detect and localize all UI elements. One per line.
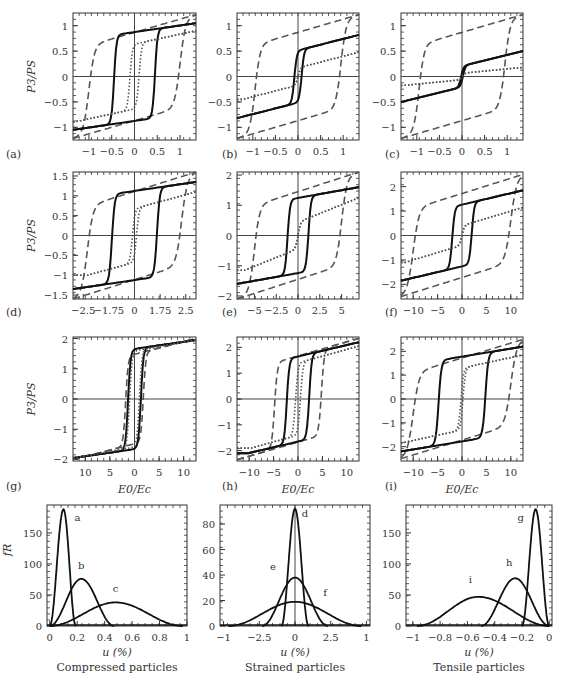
x-tick-label: −0.2 <box>510 632 534 643</box>
y-axis-title: fR <box>1 544 14 557</box>
chart-h: −10−50510−2−1012(h)E0/Ec <box>217 337 359 496</box>
chart-d: −2.5−1.7501.752.5−1.5−1−0.500.511.5(d)P3… <box>6 171 196 319</box>
y-tick-label: −1 <box>217 420 232 431</box>
x-axis-title: u (%) <box>464 646 494 659</box>
y-tick-label: 2 <box>226 170 232 181</box>
x-tick-label: 10 <box>79 467 92 478</box>
x-axis-title: u (%) <box>102 646 132 659</box>
x-tick-label: −10 <box>239 467 260 478</box>
y-tick-label: −1 <box>53 122 68 133</box>
series-label: e <box>270 561 276 572</box>
y-tick-label: 100 <box>382 559 401 570</box>
x-tick-label: −0.6 <box>455 632 479 643</box>
y-tick-label: 0 <box>36 621 42 632</box>
x-tick-label: 1.75 <box>149 305 171 316</box>
x-tick-label: 0.5 <box>313 146 329 157</box>
x-tick-label: −2.5 <box>247 632 271 643</box>
chart-e: −5−2.502.55−2−1012(e) <box>217 170 359 319</box>
x-tick-label: 0 <box>295 467 301 478</box>
y-tick-label: −0.5 <box>44 250 68 261</box>
figure: −1−0.500.51−1−0.500.51(a)P3/PS−1−0.500.5… <box>0 0 564 685</box>
x-tick-label: 5 <box>483 305 489 316</box>
x-tick-label: 0.8 <box>152 632 168 643</box>
y-tick-label: −1 <box>381 255 396 266</box>
x-tick-label: −1 <box>245 146 260 157</box>
chart-i: −10−50510−2−1012(i)E0/Ec <box>381 337 523 496</box>
x-tick-label: 1 <box>504 146 510 157</box>
y-tick-label: 1 <box>390 370 396 381</box>
y-tick-label: 1 <box>390 206 396 217</box>
x-tick-label: 1 <box>363 632 369 643</box>
x-tick-label: −1 <box>405 632 420 643</box>
x-tick-label: 0.4 <box>97 632 113 643</box>
x-tick-label: −1.75 <box>94 305 125 316</box>
x-tick-label: 0.6 <box>124 632 140 643</box>
chart-dist-tensile: −1−0.8−0.6−0.4−0.20050100150ghiu (%)Tens… <box>382 505 553 674</box>
x-tick-label: 0.5 <box>477 146 493 157</box>
x-tick-label: 2.5 <box>312 305 328 316</box>
y-tick-label: −2 <box>381 442 396 453</box>
x-tick-label: −5 <box>430 305 445 316</box>
y-tick-label: −2 <box>217 291 232 302</box>
series-label: d <box>302 508 309 519</box>
panel-label: (d) <box>6 306 22 319</box>
x-axis-title: E0/Ec <box>445 483 479 496</box>
y-tick-label: −1 <box>217 261 232 272</box>
series-label: g <box>517 512 524 523</box>
y-tick-label: −1 <box>381 418 396 429</box>
y-tick-label: 0 <box>226 394 232 405</box>
y-tick-label: 1 <box>62 364 68 375</box>
chart-dist-strained: −1−2.502.51020406080defu (%)Strained par… <box>202 505 370 674</box>
x-tick-label: −0.5 <box>427 146 451 157</box>
y-tick-label: 60 <box>202 545 215 556</box>
y-tick-label: 40 <box>202 570 215 581</box>
y-tick-label: 100 <box>23 559 42 570</box>
x-tick-label: 1 <box>340 146 346 157</box>
y-tick-label: 1 <box>226 21 232 32</box>
chart-c: −1−0.500.51−1−0.500.51(c) <box>372 13 523 161</box>
y-tick-label: 1 <box>62 21 68 32</box>
series-label: c <box>113 583 119 594</box>
x-tick-label: −10 <box>403 467 424 478</box>
x-tick-label: 0 <box>546 632 552 643</box>
y-tick-label: −0.5 <box>44 97 68 108</box>
series-h <box>481 578 549 626</box>
y-tick-label: 0.5 <box>52 211 68 222</box>
x-tick-label: −5 <box>266 467 281 478</box>
chart-g: 1050510−2−1012(g)P3/PSE0/Ec <box>6 334 196 496</box>
x-tick-label: 5 <box>156 467 162 478</box>
x-tick-label: 10 <box>504 467 517 478</box>
y-tick-label: 1.5 <box>52 171 68 182</box>
panel-label: (h) <box>222 480 238 493</box>
y-tick-label: −1 <box>381 122 396 133</box>
y-tick-label: 20 <box>202 596 215 607</box>
y-tick-label: 2 <box>226 342 232 353</box>
x-tick-label: 0 <box>459 146 465 157</box>
x-tick-label: 5 <box>338 305 344 316</box>
y-tick-label: 80 <box>202 519 215 530</box>
y-tick-label: −2 <box>217 446 232 457</box>
y-tick-label: 2 <box>62 334 68 345</box>
x-tick-label: 0.5 <box>149 146 165 157</box>
y-tick-label: 0 <box>62 231 68 242</box>
x-tick-label: 2.5 <box>323 632 339 643</box>
y-axis-title: P3/PS <box>25 219 38 254</box>
y-tick-label: 2 <box>390 182 396 193</box>
panel-caption: Strained particles <box>245 661 345 674</box>
x-tick-label: −1 <box>82 146 97 157</box>
x-axis-title: u (%) <box>280 646 310 659</box>
series-i <box>417 597 549 626</box>
panel-label: (i) <box>385 480 397 493</box>
y-tick-label: 2 <box>390 346 396 357</box>
y-tick-label: 150 <box>382 528 401 539</box>
x-tick-label: −5 <box>430 467 445 478</box>
y-tick-label: −0.5 <box>208 97 232 108</box>
y-tick-label: 1 <box>62 191 68 202</box>
series-label: h <box>506 557 513 568</box>
y-tick-label: −2 <box>381 279 396 290</box>
y-tick-label: 50 <box>388 590 401 601</box>
plot-frame <box>406 505 552 626</box>
y-tick-label: 0 <box>62 394 68 405</box>
y-tick-label: −0.5 <box>372 97 396 108</box>
x-tick-label: 10 <box>177 467 190 478</box>
